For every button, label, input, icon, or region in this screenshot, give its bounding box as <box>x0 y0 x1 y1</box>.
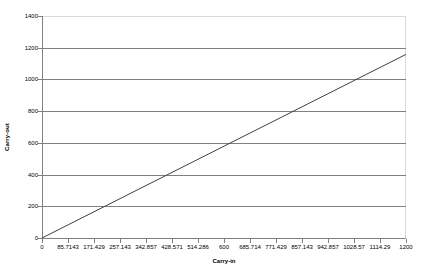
x-axis-tick-labels: 085.7143171.429257.143342.857428.571514.… <box>0 244 422 256</box>
x-tick-mark <box>354 239 355 243</box>
x-tick-mark <box>406 239 407 243</box>
x-tick-label: 1200 <box>399 244 412 250</box>
y-tick-label: 1400 <box>25 13 38 19</box>
x-tick-label: 1114.29 <box>370 244 391 250</box>
x-tick-mark <box>42 239 43 243</box>
x-tick-label: 857.143 <box>291 244 313 250</box>
x-tick-label: 0 <box>40 244 43 250</box>
y-tick-label: 200 <box>28 203 38 209</box>
x-tick-mark <box>328 239 329 243</box>
x-tick-label: 942.857 <box>317 244 339 250</box>
x-tick-label: 514.286 <box>187 244 209 250</box>
x-tick-label: 771.429 <box>265 244 287 250</box>
x-tick-label: 428.571 <box>161 244 183 250</box>
y-tick-label: 800 <box>28 108 38 114</box>
series-line <box>42 54 406 238</box>
y-tick-label: 1000 <box>25 76 38 82</box>
data-series-line <box>42 16 406 238</box>
x-tick-label: 1028.57 <box>343 244 365 250</box>
x-tick-label: 85.7143 <box>57 244 79 250</box>
y-tick-label: 1200 <box>25 45 38 51</box>
x-tick-mark <box>380 239 381 243</box>
x-tick-mark <box>198 239 199 243</box>
x-tick-label: 257.143 <box>109 244 131 250</box>
x-tick-mark <box>120 239 121 243</box>
x-tick-mark <box>146 239 147 243</box>
y-tick-label: 600 <box>28 140 38 146</box>
x-tick-label: 685.714 <box>239 244 261 250</box>
x-tick-mark <box>94 239 95 243</box>
x-tick-label: 600 <box>219 244 229 250</box>
y-tick-label: 400 <box>28 172 38 178</box>
x-tick-mark <box>276 239 277 243</box>
y-axis-tick-labels: 0200400600800100012001400 <box>12 16 38 238</box>
x-tick-label: 171.429 <box>83 244 105 250</box>
chart-container: Carry-out 0200400600800100012001400 085.… <box>0 0 422 274</box>
x-tick-mark <box>68 239 69 243</box>
x-tick-mark <box>250 239 251 243</box>
x-tick-label: 342.857 <box>135 244 157 250</box>
x-tick-mark <box>302 239 303 243</box>
x-tick-mark <box>172 239 173 243</box>
x-tick-mark <box>224 239 225 243</box>
x-axis-title: Carry-in <box>42 258 406 264</box>
